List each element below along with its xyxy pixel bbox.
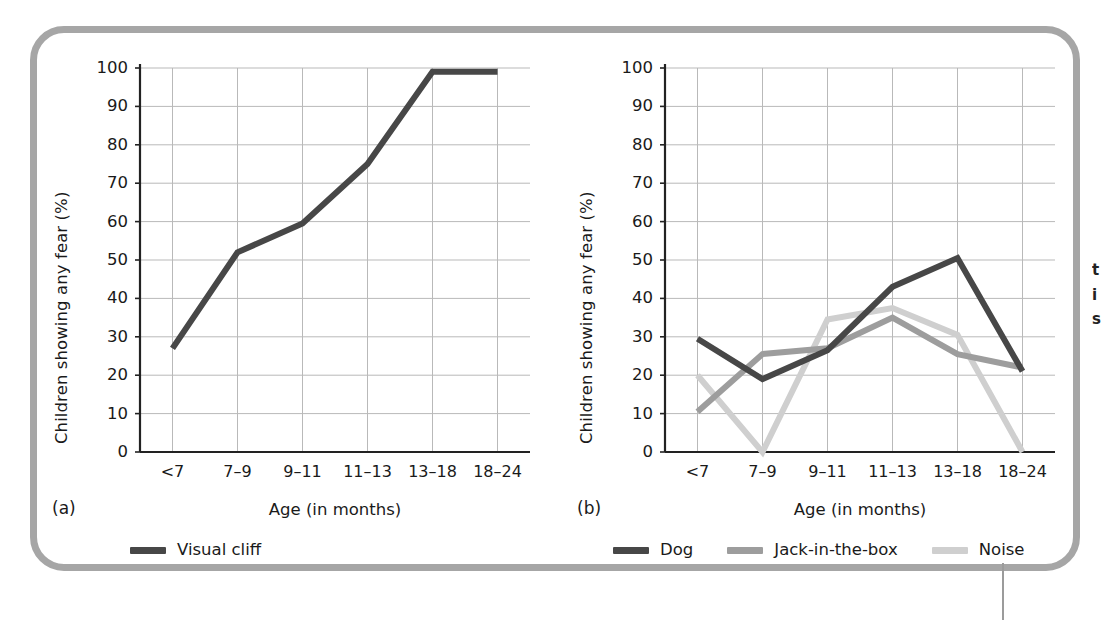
panel-letter-b: (b)	[577, 498, 601, 518]
legend-b: DogJack-in-the-boxNoise	[613, 542, 1024, 559]
data-series-line	[698, 308, 1023, 452]
y-tick-label: 90	[30, 98, 128, 115]
y-tick-label: 40	[555, 290, 653, 307]
y-tick-label: 100	[555, 60, 653, 77]
caption-text-column: tis	[1092, 258, 1113, 332]
y-tick-label: 20	[30, 367, 128, 384]
y-tick-label: 0	[30, 444, 128, 461]
legend-a: Visual cliff	[130, 542, 261, 559]
y-tick-label: 30	[30, 329, 128, 346]
chart-panel-b: Children showing any fear (%) Age (in mo…	[555, 26, 1075, 566]
chart-panel-a: Children showing any fear (%) Age (in mo…	[30, 26, 550, 566]
y-tick-label: 70	[30, 175, 128, 192]
legend-entry: Visual cliff	[130, 542, 261, 559]
legend-swatch	[130, 547, 166, 554]
y-tick-label: 60	[30, 213, 128, 230]
legend-entry: Dog	[613, 542, 693, 559]
legend-entry: Noise	[932, 542, 1025, 559]
x-tick-label: 11–13	[868, 464, 917, 480]
y-tick-label: 80	[30, 137, 128, 154]
x-tick-label: 9–11	[283, 464, 322, 480]
legend-swatch	[613, 547, 649, 554]
caption-line-fragment: i	[1092, 283, 1113, 308]
x-tick-label: <7	[686, 464, 710, 480]
x-tick-label: 18–24	[473, 464, 522, 480]
x-tick-label: 13–18	[408, 464, 457, 480]
y-tick-label: 60	[555, 213, 653, 230]
x-tick-label: 13–18	[933, 464, 982, 480]
caption-line-fragment: s	[1092, 307, 1113, 332]
y-tick-label: 50	[30, 252, 128, 269]
y-tick-label: 30	[555, 329, 653, 346]
y-tick-label: 50	[555, 252, 653, 269]
margin-rule	[1002, 563, 1004, 620]
y-tick-label: 20	[555, 367, 653, 384]
x-tick-label: 7–9	[748, 464, 776, 480]
x-tick-label: 11–13	[343, 464, 392, 480]
legend-label: Dog	[660, 542, 693, 559]
x-axis-title-b: Age (in months)	[665, 500, 1055, 519]
panel-letter-a: (a)	[52, 498, 76, 518]
caption-line-fragment: t	[1092, 258, 1113, 283]
x-tick-label: 7–9	[223, 464, 251, 480]
legend-entry: Jack-in-the-box	[727, 542, 897, 559]
legend-swatch	[727, 547, 763, 554]
legend-swatch	[932, 547, 968, 554]
y-tick-label: 80	[555, 137, 653, 154]
x-axis-title-a: Age (in months)	[140, 500, 530, 519]
x-tick-label: 18–24	[998, 464, 1047, 480]
y-tick-label: 10	[30, 405, 128, 422]
x-tick-label: 9–11	[808, 464, 847, 480]
y-tick-label: 40	[30, 290, 128, 307]
y-tick-label: 70	[555, 175, 653, 192]
y-tick-label: 100	[30, 60, 128, 77]
y-tick-label: 10	[555, 405, 653, 422]
legend-label: Noise	[979, 542, 1025, 559]
x-tick-label: <7	[161, 464, 185, 480]
y-tick-label: 90	[555, 98, 653, 115]
y-tick-label: 0	[555, 444, 653, 461]
legend-label: Jack-in-the-box	[774, 542, 897, 559]
legend-label: Visual cliff	[177, 542, 261, 559]
data-series-line	[173, 72, 498, 348]
